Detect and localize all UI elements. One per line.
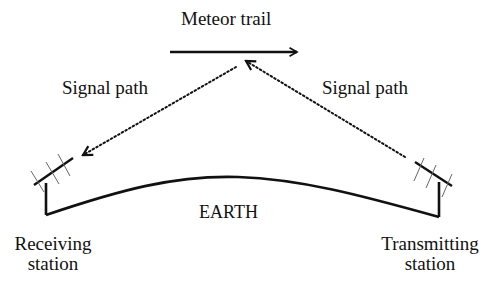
receiving-station-label-line2: station (7, 254, 99, 274)
transmitting-station-label-line2: station (370, 254, 490, 274)
signal-path-left-label: Signal path (62, 78, 148, 98)
transmitting-station-label-line1: Transmitting (370, 234, 490, 254)
meteor-trail-label: Meteor trail (181, 9, 271, 29)
signal-path-right-arrow (246, 61, 405, 157)
receiving-antenna-icon (31, 154, 73, 215)
receiving-station-label-line1: Receiving (7, 234, 99, 254)
transmitting-antenna-icon (414, 158, 452, 217)
earth-label: EARTH (199, 203, 258, 222)
meteor-scatter-diagram: Meteor trail Signal path Signal path EAR… (0, 0, 501, 297)
receiving-station-label: Receiving station (7, 234, 99, 274)
signal-path-right-label: Signal path (322, 78, 408, 98)
transmitting-station-label: Transmitting station (370, 234, 490, 274)
